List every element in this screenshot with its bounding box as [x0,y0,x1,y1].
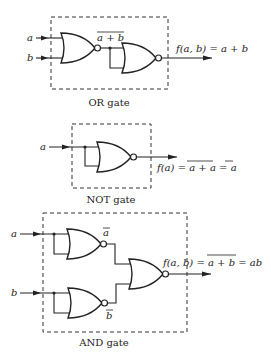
and-b-bar-label: b [106,310,112,321]
and-gate-diagram: a a b b f(a, b) = a + b = ab AND gate [11,213,262,348]
not-output-result: a [231,162,237,173]
arrow-icon [41,36,48,41]
and-b-tied-wire [54,293,70,313]
not-tied-input-wire [85,147,99,166]
arrow-icon [168,155,177,160]
or-gate-diagram: a b a + b f(a, b) = a + b OR gate [27,17,248,108]
nor-gate-diagrams: a b a + b f(a, b) = a + b OR gate a [0,0,271,357]
or-intermediate-label: a + b [97,32,124,43]
not-input-a-label: a [40,141,46,152]
and-output-overlined: a + b [208,257,235,268]
or-gate-caption: OR gate [88,97,129,108]
inversion-bubble [102,300,108,306]
or-output-label: f(a, b) = a + b [175,43,248,54]
or-input-a-label: a [27,32,33,43]
arrow-icon [33,232,41,237]
and-a-bar-label: a [103,227,109,238]
or-input-b-label: b [27,52,33,63]
and-b-bar-wire [108,284,132,303]
inversion-bubble [131,154,137,160]
inversion-bubble [163,271,169,277]
and-input-a-label: a [11,228,17,239]
inversion-bubble [156,55,162,61]
not-output-prefix: f(a) = [156,162,189,173]
and-final-nor-gate [129,259,163,289]
arrow-icon [202,272,211,277]
and-a-nor-gate [67,229,101,259]
and-output-suffix: = ab [235,257,262,268]
and-input-b-label: b [11,287,17,298]
not-output-label: f(a) = a + a = a [156,162,237,173]
arrow-icon [41,56,48,61]
and-gate-caption: AND gate [78,337,129,348]
not-nor-gate [97,142,131,172]
not-gate-caption: NOT gate [86,194,135,205]
and-b-nor-gate [68,288,102,318]
arrow-icon [62,145,70,150]
not-output-overlined: a + a [189,162,216,173]
or-tied-input-wire [110,48,124,68]
and-output-label: f(a, b) = a + b = ab [162,257,262,268]
or-second-nor-gate [122,43,156,73]
and-a-tied-wire [54,234,69,254]
inversion-bubble [95,45,101,51]
and-a-bar-wire [107,244,132,264]
not-output-eq: = [216,162,231,173]
inversion-bubble [101,241,107,247]
and-output-prefix: f(a, b) = [162,257,208,268]
arrow-icon [203,56,212,61]
not-gate-diagram: a f(a) = a + a = a NOT gate [40,124,237,205]
or-first-nor-gate [61,33,95,63]
arrow-icon [33,291,41,296]
